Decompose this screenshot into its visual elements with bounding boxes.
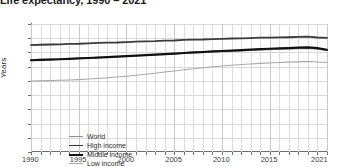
x-tick-mark <box>308 152 309 155</box>
x-tick-mark <box>184 152 185 155</box>
legend-item-label: Middle income <box>87 150 132 159</box>
legend-item-middle-income[interactable]: Middle income <box>69 150 132 159</box>
x-tick-label: 2005 <box>165 155 182 164</box>
legend-item-label: High income <box>87 141 126 150</box>
x-tick-mark <box>298 152 299 155</box>
x-tick-mark <box>146 152 147 155</box>
series-line-middle-income <box>31 47 327 60</box>
plot-area: 0102030405060708090 19901995200020052010… <box>31 24 327 152</box>
x-tick-label: 1990 <box>22 155 39 164</box>
legend-swatch-icon <box>69 154 83 156</box>
chart-title: Life expectancy, 1990 – 2021 <box>0 0 146 6</box>
legend-swatch-icon <box>69 163 83 164</box>
x-tick-mark <box>251 152 252 155</box>
x-tick-mark <box>232 152 233 155</box>
x-tick-label: 2010 <box>213 155 230 164</box>
x-tick-mark <box>289 152 290 155</box>
legend-swatch-icon <box>69 136 83 137</box>
legend-item-world[interactable]: World <box>69 132 132 141</box>
x-tick-mark <box>136 152 137 155</box>
series-line-low-income <box>31 61 327 81</box>
gridline-vertical <box>327 24 328 152</box>
x-tick-mark <box>50 152 51 155</box>
x-tick-label: 2021 <box>311 155 328 164</box>
x-tick-mark <box>60 152 61 155</box>
series-line-high-income <box>31 37 327 45</box>
legend-item-label: World <box>87 132 105 141</box>
chart-legend: WorldHigh incomeMiddle incomeLow income <box>69 132 132 167</box>
x-tick-mark <box>193 152 194 155</box>
legend-item-low-income[interactable]: Low income <box>69 159 132 167</box>
life-expectancy-chart: Life expectancy, 1990 – 2021 01020304050… <box>0 0 338 167</box>
x-tick-mark <box>241 152 242 155</box>
legend-item-label: Low income <box>87 159 124 167</box>
x-tick-mark <box>41 152 42 155</box>
legend-item-high-income[interactable]: High income <box>69 141 132 150</box>
legend-swatch-icon <box>69 145 83 146</box>
y-axis-label: Years <box>0 58 8 78</box>
x-tick-label: 2015 <box>261 155 278 164</box>
x-tick-mark <box>203 152 204 155</box>
x-tick-mark <box>279 152 280 155</box>
x-tick-mark <box>155 152 156 155</box>
